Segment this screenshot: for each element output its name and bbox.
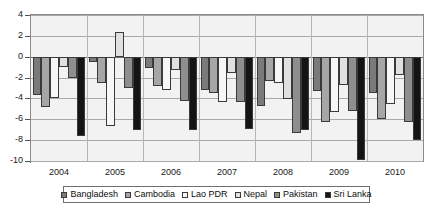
y-axis-tick-label: -6 — [0, 114, 23, 123]
y-axis-tick-label: 2 — [0, 31, 23, 40]
bar-nepal-2007 — [227, 57, 236, 74]
bar-pakistan-2005 — [124, 57, 133, 88]
bar-bangladesh-2007 — [201, 57, 210, 90]
legend-swatch-icon — [182, 192, 188, 198]
bar-lao-pdr-2009 — [330, 57, 339, 112]
group-separator — [143, 15, 144, 161]
bar-cambodia-2004 — [41, 57, 50, 107]
bar-bangladesh-2008 — [257, 57, 266, 106]
bar-cambodia-2007 — [209, 57, 218, 94]
legend-swatch-icon — [274, 192, 280, 198]
plot-area — [30, 14, 424, 162]
bar-nepal-2006 — [171, 57, 180, 71]
legend-label: Sri Lanka — [334, 190, 372, 199]
group-separator — [87, 15, 88, 161]
bar-sri-lanka-2008 — [301, 57, 310, 130]
bar-cambodia-2006 — [153, 57, 162, 86]
bar-lao-pdr-2007 — [218, 57, 227, 102]
gridline-4 — [31, 15, 423, 16]
bar-pakistan-2010 — [404, 57, 413, 123]
bar-lao-pdr-2004 — [50, 57, 59, 99]
y-axis-tick-label: -10 — [0, 156, 23, 165]
bar-nepal-2004 — [59, 57, 68, 67]
bar-lao-pdr-2005 — [106, 57, 115, 126]
bar-cambodia-2009 — [321, 57, 330, 123]
legend-swatch-icon — [61, 192, 67, 198]
bar-pakistan-2009 — [348, 57, 357, 111]
legend-label: Cambodia — [134, 190, 175, 199]
legend-label: Pakistan — [283, 190, 318, 199]
x-axis-tick-label-2010: 2010 — [367, 167, 423, 177]
legend-item-cambodia[interactable]: Cambodia — [125, 190, 175, 199]
bar-cambodia-2005 — [97, 57, 106, 83]
y-axis-tick-label: -2 — [0, 73, 23, 82]
y-axis-tick-label: -8 — [0, 135, 23, 144]
bar-nepal-2008 — [283, 57, 292, 100]
gridline-neg10 — [31, 161, 423, 162]
y-axis-tick-label: 4 — [0, 10, 23, 19]
bar-nepal-2009 — [339, 57, 348, 85]
legend-item-nepal[interactable]: Nepal — [235, 190, 268, 199]
bar-sri-lanka-2009 — [357, 57, 366, 160]
bar-pakistan-2004 — [68, 57, 77, 78]
bar-lao-pdr-2010 — [386, 57, 395, 104]
x-axis-tick-label-2004: 2004 — [31, 167, 87, 177]
legend-item-lao-pdr[interactable]: Lao PDR — [182, 190, 228, 199]
plot-inner — [31, 15, 423, 161]
legend-item-sri-lanka[interactable]: Sri Lanka — [325, 190, 372, 199]
legend-label: Lao PDR — [191, 190, 228, 199]
grouped-bar-chart: 420-2-4-6-8-10 2004200520062007200820092… — [0, 0, 431, 211]
bar-pakistan-2007 — [236, 57, 245, 102]
gridline-2 — [31, 36, 423, 37]
bar-pakistan-2006 — [180, 57, 189, 101]
chart-legend: BangladeshCambodiaLao PDRNepalPakistanSr… — [63, 186, 370, 203]
bar-bangladesh-2004 — [33, 57, 42, 96]
bar-lao-pdr-2006 — [162, 57, 171, 90]
legend-swatch-icon — [235, 192, 241, 198]
bar-cambodia-2008 — [265, 57, 274, 81]
legend-item-pakistan[interactable]: Pakistan — [274, 190, 318, 199]
bar-cambodia-2010 — [377, 57, 386, 120]
bar-bangladesh-2005 — [89, 57, 98, 62]
legend-item-bangladesh[interactable]: Bangladesh — [61, 190, 118, 199]
bar-nepal-2005 — [115, 32, 124, 57]
bar-pakistan-2008 — [292, 57, 301, 133]
x-axis-tick-label-2006: 2006 — [143, 167, 199, 177]
bar-bangladesh-2009 — [313, 57, 322, 91]
bar-sri-lanka-2007 — [245, 57, 254, 129]
bar-sri-lanka-2006 — [189, 57, 198, 130]
bar-sri-lanka-2005 — [133, 57, 142, 130]
x-axis-tick-label-2009: 2009 — [311, 167, 367, 177]
y-axis-tick-label: 0 — [0, 52, 23, 61]
y-axis-tick-label: -4 — [0, 93, 23, 102]
bar-sri-lanka-2010 — [413, 57, 422, 140]
bar-sri-lanka-2004 — [77, 57, 86, 136]
legend-swatch-icon — [125, 192, 131, 198]
bar-nepal-2010 — [395, 57, 404, 76]
legend-label: Nepal — [244, 190, 268, 199]
bar-lao-pdr-2008 — [274, 57, 283, 83]
x-axis-tick-label-2005: 2005 — [87, 167, 143, 177]
x-axis-tick-label-2008: 2008 — [255, 167, 311, 177]
x-axis-tick-label-2007: 2007 — [199, 167, 255, 177]
legend-label: Bangladesh — [70, 190, 118, 199]
bar-bangladesh-2010 — [369, 57, 378, 94]
legend-swatch-icon — [325, 192, 331, 198]
bar-bangladesh-2006 — [145, 57, 154, 68]
